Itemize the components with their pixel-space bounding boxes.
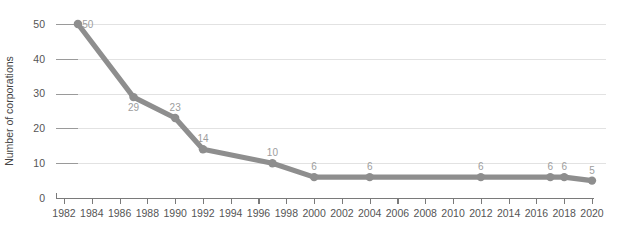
x-tick-label-1992: 1992 <box>191 207 215 219</box>
data-point-1990 <box>171 114 179 122</box>
line-chart-container: 0102030405019821984198619881990199219941… <box>0 0 618 245</box>
x-tick-label-1984: 1984 <box>80 207 104 219</box>
y-tick-label-30: 30 <box>33 87 45 99</box>
x-tick-label-1994: 1994 <box>219 207 243 219</box>
data-point-2018 <box>560 173 568 181</box>
x-tick-label-2000: 2000 <box>302 207 326 219</box>
data-label-1992: 14 <box>197 133 209 144</box>
data-point-2017 <box>546 173 554 181</box>
data-label-2018: 6 <box>561 161 567 172</box>
x-tick-label-2014: 2014 <box>497 207 521 219</box>
data-label-2000: 6 <box>311 161 317 172</box>
x-tick-label-1998: 1998 <box>275 207 299 219</box>
data-label-2004: 6 <box>367 161 373 172</box>
data-label-1987: 29 <box>128 102 140 113</box>
data-point-2020 <box>588 176 596 184</box>
x-tick-label-2004: 2004 <box>358 207 382 219</box>
data-point-1987 <box>129 93 137 101</box>
x-tick-label-1986: 1986 <box>108 207 132 219</box>
data-label-1983: 50 <box>82 19 94 30</box>
x-tick-label-2008: 2008 <box>414 207 438 219</box>
data-label-2017: 6 <box>548 161 554 172</box>
data-point-2000 <box>310 173 318 181</box>
data-point-2004 <box>365 173 373 181</box>
data-point-2012 <box>477 173 485 181</box>
x-tick-label-2002: 2002 <box>330 207 354 219</box>
y-tick-label-50: 50 <box>33 18 45 30</box>
x-tick-label-2020: 2020 <box>580 207 604 219</box>
x-tick-label-2016: 2016 <box>525 207 549 219</box>
x-tick-label-2012: 2012 <box>469 207 493 219</box>
data-label-1990: 23 <box>170 102 182 113</box>
x-tick-label-1982: 1982 <box>52 207 76 219</box>
y-tick-label-40: 40 <box>33 53 45 65</box>
series-line-0 <box>78 24 592 181</box>
x-tick-label-2010: 2010 <box>441 207 465 219</box>
line-chart: 0102030405019821984198619881990199219941… <box>0 0 618 245</box>
data-label-1997: 10 <box>267 147 279 158</box>
y-tick-label-20: 20 <box>33 122 45 134</box>
x-tick-label-2006: 2006 <box>386 207 410 219</box>
data-point-1992 <box>199 145 207 153</box>
data-label-2012: 6 <box>478 161 484 172</box>
y-tick-label-10: 10 <box>33 157 45 169</box>
x-tick-label-1990: 1990 <box>163 207 187 219</box>
data-point-1983 <box>74 20 82 28</box>
data-label-2020: 5 <box>589 165 595 176</box>
y-tick-label-0: 0 <box>39 192 45 204</box>
y-axis-title: Number of corporations <box>3 56 15 166</box>
x-tick-label-1988: 1988 <box>136 207 160 219</box>
data-point-1997 <box>268 159 276 167</box>
x-tick-label-1996: 1996 <box>247 207 271 219</box>
x-tick-label-2018: 2018 <box>553 207 577 219</box>
